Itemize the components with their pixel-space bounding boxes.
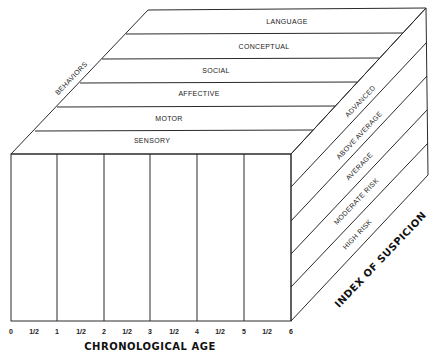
age-tick: 1/2 — [76, 328, 86, 335]
index-of-suspicion-axis-label: INDEX OF SUSPICION — [333, 209, 429, 309]
behavior-band-line — [126, 33, 403, 34]
behavior-label-social: SOCIAL — [202, 67, 229, 74]
age-tick: 1/2 — [215, 328, 225, 335]
age-tick: 0 — [9, 328, 13, 335]
age-tick: 1/2 — [262, 328, 272, 335]
behavior-band-line — [57, 106, 335, 107]
behavior-label-motor: MOTOR — [155, 115, 182, 122]
suspicion-label-above-average: ABOVE AVERAGE — [335, 110, 383, 160]
suspicion-label-average: AVERAGE — [344, 151, 373, 182]
age-tick: 1/2 — [29, 328, 39, 335]
behavior-band-line — [35, 130, 313, 131]
age-tick: 6 — [289, 328, 293, 335]
suspicion-label-high-risk: HIGH RISK — [341, 218, 373, 251]
behavior-label-sensory: SENSORY — [134, 137, 170, 144]
age-tick: 1/2 — [122, 328, 132, 335]
age-tick: 1/2 — [169, 328, 179, 335]
front-face — [11, 154, 291, 321]
behavior-band-line — [80, 82, 357, 83]
suspicion-labels: ADVANCED ABOVE AVERAGE AVERAGE MODERATE … — [333, 84, 429, 310]
age-tick: 2 — [102, 328, 106, 335]
behavior-label-language: LANGUAGE — [266, 18, 307, 25]
age-tick: 4 — [195, 328, 199, 335]
front-face-outline — [11, 154, 291, 321]
age-tick: 1 — [55, 328, 59, 335]
age-tick: 3 — [148, 328, 152, 335]
behavior-labels: LANGUAGE CONCEPTUAL SOCIAL AFFECTIVE MOT… — [54, 18, 308, 144]
behavior-cube-diagram: LANGUAGE CONCEPTUAL SOCIAL AFFECTIVE MOT… — [0, 0, 434, 357]
behavior-label-conceptual: CONCEPTUAL — [239, 43, 290, 50]
behavior-label-affective: AFFECTIVE — [178, 90, 219, 97]
age-tick: 5 — [242, 328, 246, 335]
behavior-band-line — [102, 58, 379, 59]
age-ticks: 0 1/2 1 1/2 2 1/2 3 1/2 4 1/2 5 1/2 6 — [9, 328, 293, 335]
chronological-age-axis-label: CHRONOLOGICAL AGE — [84, 341, 215, 352]
